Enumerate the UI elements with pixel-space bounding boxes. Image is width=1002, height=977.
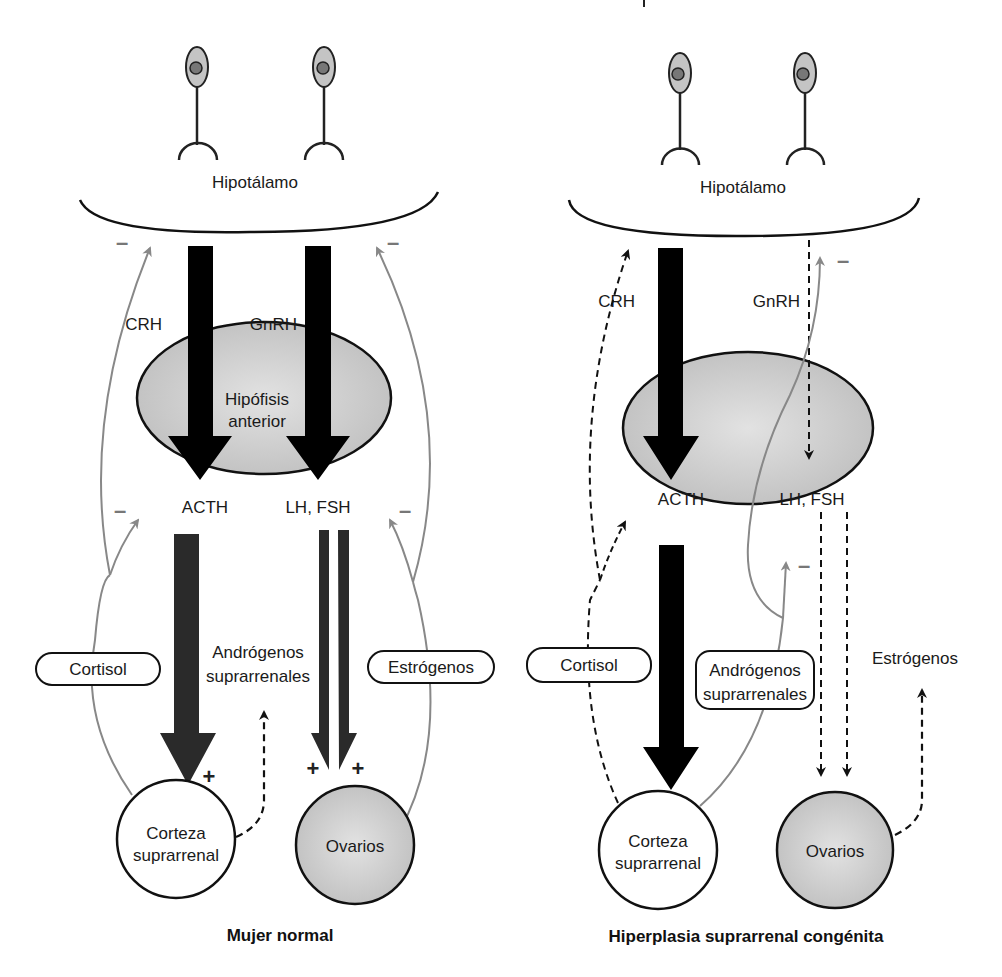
estrogen-dashed-arrow [895,690,922,835]
ovaries-label: Ovarios [806,842,865,861]
cortisol-dashed-stem [588,580,618,803]
androgens-label-1: Andrógenos [709,661,801,680]
panel-chc: Hipotálamo CRH GnRH ACTH LH, FSH – – Cor… [527,53,958,946]
panel-normal: Hipotálamo CRH GnRH Hipófisis anterior A… [36,47,494,945]
gnrh-label: GnRH [250,315,297,334]
adrenal-label-1: Corteza [146,824,206,843]
adrenal-label-2: suprarrenal [615,854,701,873]
estrogen-feedback-stem [400,582,430,830]
cortisol-label: Cortisol [69,660,127,679]
lhfsh-label: LH, FSH [285,498,350,517]
adrenal-label-2: suprarrenal [133,846,219,865]
acth-label: ACTH [658,490,704,509]
crh-label: CRH [125,315,162,334]
estrogen-feedback-pituitary [390,520,413,582]
cortisol-feedback-pituitary [110,520,138,575]
pituitary-label-2: anterior [228,412,286,431]
lh-arrow [311,530,329,770]
minus-estrogen-pit: – [399,498,411,523]
androgens-label-1: Andrógenos [212,643,304,662]
neuron-right [305,47,343,160]
androgen-feedback-stem [700,618,783,806]
minus-androgen-pit: – [798,553,810,578]
hypothalamus-label: Hipotálamo [212,173,298,192]
androgens-label-2: suprarrenales [703,685,807,704]
plus-ovary-2: + [352,756,365,781]
lhfsh-label: LH, FSH [779,490,844,509]
minus-androgen-hyp: – [837,248,849,273]
panel-title-chc: Hiperplasia suprarrenal congénita [609,927,884,946]
pituitary-label-1: Hipófisis [225,390,289,409]
endocrine-diagram: Hipotálamo CRH GnRH Hipófisis anterior A… [0,0,1002,977]
plus-adrenal: + [203,764,216,789]
estrogen-label: Estrógenos [872,649,958,668]
gnrh-label: GnRH [753,292,800,311]
panel-title-normal: Mujer normal [227,926,334,945]
neuron-left [662,53,699,165]
minus-cortisol-pit: – [114,498,126,523]
hypothalamus-label: Hipotálamo [700,178,786,197]
neuron-right [787,53,824,165]
minus-estrogen-hyp: – [387,230,399,255]
minus-cortisol-hyp: – [116,230,128,255]
acth-arrow [160,534,216,785]
ovaries-label: Ovarios [326,837,385,856]
crh-label: CRH [598,292,635,311]
estrogen-label: Estrógenos [388,658,474,677]
acth-label: ACTH [182,498,228,517]
adrenal-label-1: Corteza [628,832,688,851]
neuron-left [179,47,217,160]
hypothalamus-boundary [80,192,438,232]
cortisol-dashed-pituitary [600,522,625,580]
hypothalamus-boundary [569,198,919,236]
plus-ovary-1: + [307,756,320,781]
cortisol-label: Cortisol [560,656,618,675]
androgen-feedback-pituitary [783,563,786,618]
androgens-label-2: suprarrenales [206,667,310,686]
androgen-dashed-arrow [236,712,264,837]
fsh-arrow [338,530,357,770]
